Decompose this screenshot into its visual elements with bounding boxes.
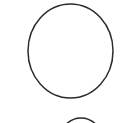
canvas-background	[0, 0, 123, 123]
figure-canvas: A white page showing a large thin-stroke…	[0, 0, 123, 123]
figure-svg	[0, 0, 123, 123]
